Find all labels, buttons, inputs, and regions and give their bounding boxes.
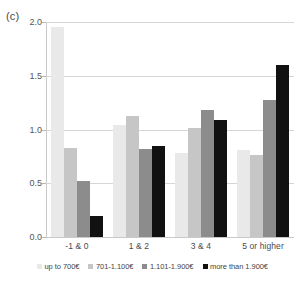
bar [201,110,214,237]
chart-figure: (c) 0.00.51.01.52.0 -1 & 01 & 23 & 45 or… [0,0,305,288]
x-axis-label: -1 & 0 [46,241,108,251]
chart-legend: up to 700€701-1.100€1.101-1.900€more tha… [0,262,305,271]
x-axis-labels: -1 & 01 & 23 & 45 or higher [46,241,294,251]
legend-item[interactable]: more than 1.900€ [203,262,269,271]
y-tick-label: 0.0 [2,233,42,242]
legend-swatch-icon [203,264,208,269]
legend-label: more than 1.900€ [210,262,268,271]
legend-label: up to 700€ [44,262,79,271]
bar [214,120,227,237]
bar [237,150,250,237]
legend-label: 701-1.100€ [96,262,133,271]
legend-swatch-icon [37,264,42,269]
y-tick-label: 1.0 [2,125,42,134]
bar [152,146,165,237]
bar [126,116,139,237]
bar [175,153,188,237]
plot-area [46,22,294,237]
bar [113,125,126,237]
y-tick-label: 0.5 [2,179,42,188]
bar [263,100,276,237]
bar-group [108,22,170,237]
bar [90,216,103,238]
y-tick-label: 2.0 [2,18,42,27]
legend-label: 1.101-1.900€ [150,262,194,271]
x-axis-label: 1 & 2 [108,241,170,251]
x-axis-label: 3 & 4 [170,241,232,251]
legend-swatch-icon [88,264,93,269]
legend-swatch-icon [142,264,147,269]
bar-group [170,22,232,237]
bar-group [232,22,294,237]
x-axis-label: 5 or higher [232,241,294,251]
bar [139,149,152,237]
gridline [46,237,294,238]
legend-item[interactable]: 701-1.100€ [88,262,133,271]
y-axis-labels: 0.00.51.01.52.0 [0,0,42,288]
bar-groups [46,22,294,237]
bar [77,181,90,237]
bar [188,128,201,237]
bar [276,65,289,237]
y-tick-label: 1.5 [2,71,42,80]
bar [64,148,77,237]
bar-group [46,22,108,237]
bar [51,27,64,237]
bar [250,155,263,237]
legend-item[interactable]: up to 700€ [37,262,79,271]
legend-item[interactable]: 1.101-1.900€ [142,262,193,271]
